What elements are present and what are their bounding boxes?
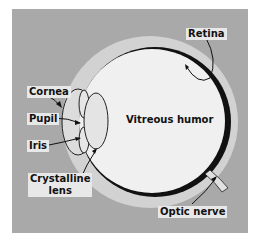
label-pupil: Pupil <box>27 113 59 125</box>
crystalline-lens <box>84 93 108 149</box>
label-crystalline-line1: Crystalline <box>30 173 90 185</box>
label-vitreous-humor: Vitreous humor <box>124 114 215 126</box>
label-cornea: Cornea <box>27 86 71 98</box>
label-crystalline-line2: lens <box>30 185 90 197</box>
label-optic-nerve: Optic nerve <box>158 206 227 218</box>
label-crystalline-lens: Crystalline lens <box>28 173 92 197</box>
label-iris: Iris <box>27 140 49 152</box>
label-retina: Retina <box>186 28 227 40</box>
